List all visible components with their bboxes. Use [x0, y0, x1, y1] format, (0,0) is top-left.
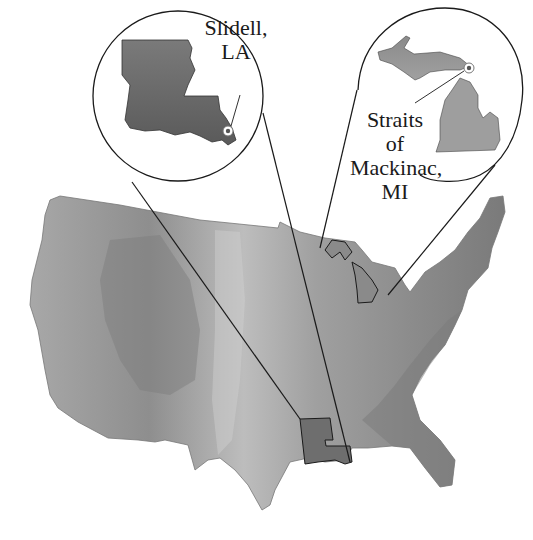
mackinac-label: Straits of Mackinac, MI	[350, 108, 440, 204]
slidell-label-line1: Slidell,	[200, 16, 272, 40]
us-map	[30, 196, 505, 510]
mackinac-label-line1: Straits	[350, 108, 440, 132]
slidell-label: Slidell, LA	[200, 16, 272, 64]
mackinac-label-line4: MI	[350, 180, 440, 204]
slidell-label-line2: LA	[200, 40, 272, 64]
mackinac-label-line3: Mackinac,	[350, 156, 440, 180]
mackinac-label-line2: of	[350, 132, 440, 156]
map-figure	[0, 0, 533, 540]
